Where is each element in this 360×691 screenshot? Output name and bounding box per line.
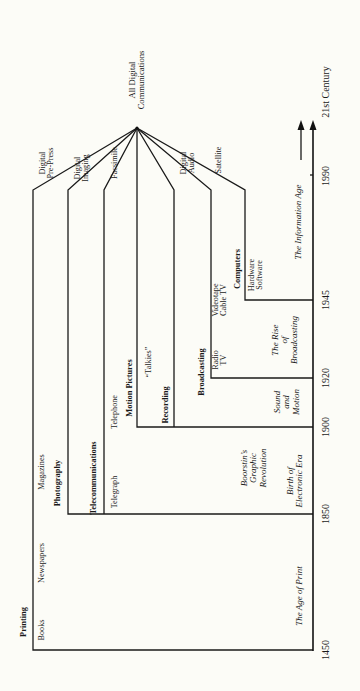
year-1990: 1990 bbox=[321, 166, 331, 186]
broadcasting-label: Broadcasting bbox=[198, 348, 206, 395]
year-21st-century: 21st Century bbox=[321, 66, 331, 117]
era-information-age: The Information Age bbox=[294, 185, 303, 260]
digital-prepress-label: Digital Pre-Press bbox=[39, 148, 55, 179]
motion-pictures-label: Motion Pictures bbox=[126, 359, 134, 416]
radio-tv-label: Radio TV bbox=[212, 350, 228, 370]
timeline-arrowhead bbox=[310, 120, 317, 130]
media-convergence-diagram: All Digital Communications Printing Book… bbox=[0, 0, 360, 691]
era-sound-motion: Sound and Motion bbox=[273, 389, 301, 415]
books-label: Books bbox=[38, 620, 46, 641]
digital-imaging-label: Digital Imaging bbox=[74, 154, 90, 181]
year-1920: 1920 bbox=[321, 368, 331, 388]
era-electronic: Birth of Electronic Era bbox=[286, 455, 305, 508]
hardware-software-label: Hardware Software bbox=[248, 259, 264, 291]
year-1900: 1900 bbox=[321, 417, 331, 437]
telecommunications-label: Telecommunications bbox=[90, 441, 98, 514]
telegraph-label: Telegraph bbox=[111, 476, 119, 509]
newspapers-label: Newspapers bbox=[38, 543, 46, 583]
telephone-label: Telephone bbox=[111, 395, 119, 429]
year-1450: 1450 bbox=[321, 640, 331, 660]
photography-label: Photography bbox=[54, 460, 62, 507]
videotape-cabletv-label: Videotape Cable TV bbox=[212, 283, 228, 316]
era-age-of-print: The Age of Print bbox=[295, 566, 304, 626]
printing-line bbox=[33, 128, 313, 650]
recording-label: Recording bbox=[162, 386, 170, 423]
year-1945: 1945 bbox=[321, 290, 331, 310]
digital-audio-label: Digital Audio bbox=[180, 152, 196, 175]
year-1850: 1850 bbox=[321, 504, 331, 524]
facsimile-label: Facsimile bbox=[111, 147, 119, 179]
convergence-node bbox=[135, 126, 138, 129]
talkies-label: “Talkies” bbox=[145, 347, 153, 378]
satellite-label: Satellite bbox=[215, 147, 223, 174]
telecommunications-line bbox=[104, 128, 137, 514]
computers-line bbox=[137, 128, 313, 300]
era-rise-of-broadcasting: The Rise of Broadcasting bbox=[271, 316, 299, 364]
diagram-lines bbox=[0, 0, 360, 691]
computers-label: Computers bbox=[234, 249, 242, 289]
printing-label: Printing bbox=[20, 607, 28, 637]
all-digital-communications-label: All Digital Communications bbox=[128, 51, 145, 110]
magazines-label: Magazines bbox=[38, 454, 46, 489]
info-age-arrowhead bbox=[298, 120, 305, 130]
recording-line bbox=[137, 128, 174, 427]
era-graphic-revolution: Boorstin’s Graphic Revolution bbox=[240, 449, 268, 488]
